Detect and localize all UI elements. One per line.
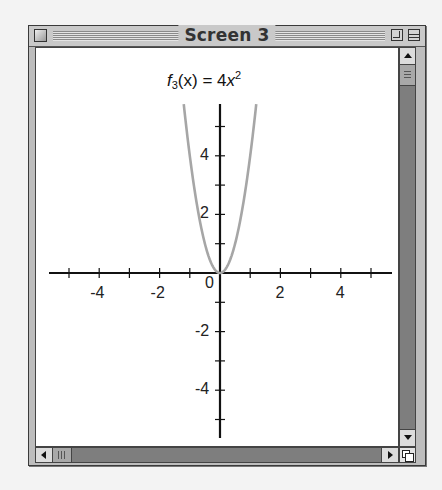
horizontal-scrollbar[interactable] (35, 447, 399, 463)
title-bar[interactable]: Screen 3 (29, 26, 425, 47)
equals-sign: = (198, 71, 217, 90)
collapse-box-icon[interactable] (408, 29, 420, 41)
graph-area: f3(x) = 4x2 -4-202442-2-4 (35, 47, 399, 447)
x-tick-label: 4 (336, 284, 345, 302)
exponent: 2 (235, 69, 241, 81)
y-tick-label: -4 (195, 380, 209, 398)
x-tick-label: 0 (205, 274, 214, 292)
x-tick-label: -2 (151, 284, 165, 302)
y-tick-label: 2 (200, 204, 209, 222)
vertical-scroll-thumb[interactable] (400, 65, 415, 86)
y-tick-label: -2 (195, 322, 209, 340)
vertical-scrollbar[interactable] (399, 47, 416, 447)
scroll-left-arrow-icon[interactable] (36, 448, 53, 462)
close-box-icon[interactable] (34, 29, 47, 42)
variable: x (227, 71, 236, 90)
graph-window: Screen 3 f3(x) = 4x2 -4-202442-2-4 (28, 25, 426, 466)
scroll-down-arrow-icon[interactable] (400, 429, 415, 446)
scroll-up-arrow-icon[interactable] (400, 48, 415, 65)
function-plot (36, 48, 398, 446)
resize-grow-box-icon[interactable] (399, 447, 416, 463)
coefficient: 4 (217, 71, 226, 90)
x-tick-label: 2 (275, 284, 284, 302)
scroll-right-arrow-icon[interactable] (381, 448, 398, 462)
function-label: f3(x) = 4x2 (167, 69, 241, 91)
x-tick-label: -4 (90, 284, 104, 302)
horizontal-scroll-thumb[interactable] (53, 448, 72, 462)
zoom-box-icon[interactable] (391, 29, 403, 41)
y-tick-label: 4 (200, 146, 209, 164)
window-title: Screen 3 (178, 25, 275, 45)
function-arg: (x) (178, 71, 198, 90)
